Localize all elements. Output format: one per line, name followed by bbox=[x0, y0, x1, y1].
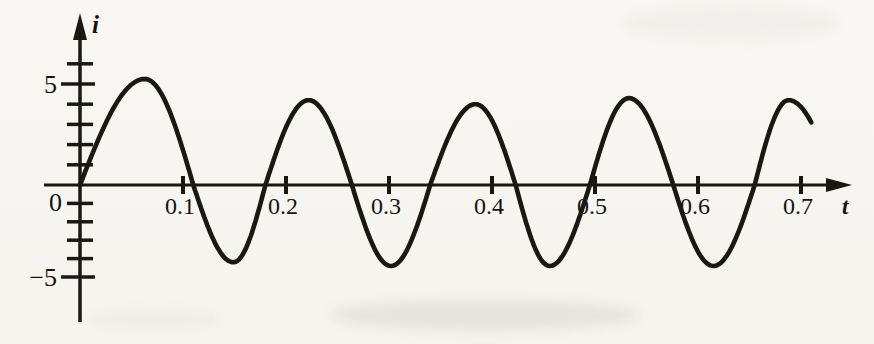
x-axis-title: t bbox=[842, 194, 849, 219]
current-waveform-curve bbox=[80, 79, 811, 266]
x-tick-label: 0.3 bbox=[371, 193, 401, 219]
x-tick-label: 0.1 bbox=[165, 193, 195, 219]
current-vs-time-graph: 0.10.20.30.40.50.60.750−5it bbox=[0, 0, 874, 344]
x-tick-label: 0.2 bbox=[268, 193, 298, 219]
scanned-figure-page: 0.10.20.30.40.50.60.750−5it bbox=[0, 0, 874, 344]
x-tick-label: 0.4 bbox=[474, 193, 504, 219]
y-tick-label: 5 bbox=[44, 70, 57, 99]
origin-label: 0 bbox=[49, 188, 62, 217]
x-axis-arrowhead bbox=[826, 178, 852, 192]
y-axis-title: i bbox=[92, 11, 99, 38]
y-tick-label: −5 bbox=[29, 263, 57, 292]
y-axis-arrowhead bbox=[73, 13, 87, 40]
x-tick-label: 0.7 bbox=[783, 193, 813, 219]
